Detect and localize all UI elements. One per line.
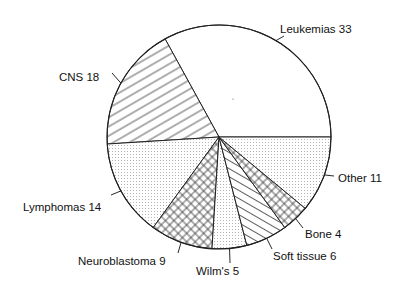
leader-line bbox=[276, 36, 284, 41]
leader-line bbox=[112, 73, 121, 83]
label-other: Other 11 bbox=[338, 172, 382, 184]
stray-mark bbox=[232, 98, 233, 99]
label-cns: CNS 18 bbox=[59, 71, 99, 83]
label-neuroblastoma: Neuroblastoma 9 bbox=[78, 255, 166, 267]
leader-line bbox=[111, 191, 121, 195]
label-bone: Bone 4 bbox=[305, 228, 342, 240]
label-soft-tissue: Soft tissue 6 bbox=[273, 250, 336, 262]
slices-group bbox=[107, 25, 331, 249]
label-leukemias: Leukemias 33 bbox=[280, 23, 352, 35]
label-wilms: Wilm's 5 bbox=[196, 265, 239, 277]
label-lymphomas: Lymphomas 14 bbox=[23, 201, 102, 213]
leader-line bbox=[296, 219, 303, 228]
leader-line bbox=[267, 238, 272, 249]
leader-line bbox=[178, 242, 181, 253]
pie-chart: Leukemias 33 CNS 18 Lymphomas 14 Neurobl… bbox=[0, 0, 410, 285]
leader-line bbox=[324, 175, 334, 176]
